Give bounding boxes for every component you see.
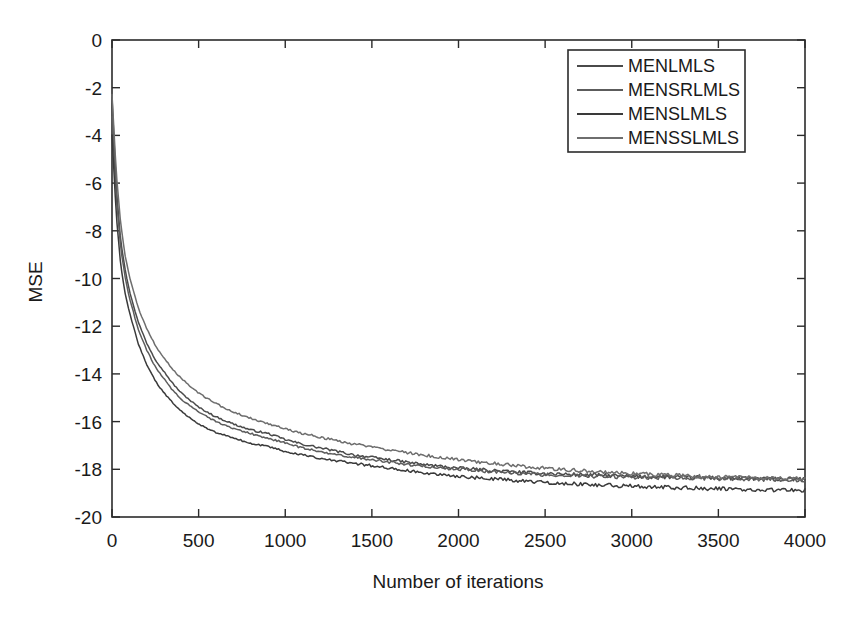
chart-legend: MENLMLSMENSRLMLSMENSLMLSMENSSLMLS (568, 50, 745, 152)
y-tick-label: -18 (75, 459, 102, 480)
x-tick-label: 1500 (351, 530, 393, 551)
y-tick-label: -10 (75, 269, 102, 290)
series-line-mensrlmls (112, 117, 805, 482)
series-lines (112, 95, 805, 492)
y-tick-label: -14 (75, 364, 103, 385)
y-tick-label: 0 (91, 30, 102, 51)
x-tick-label: 2500 (524, 530, 566, 551)
legend-label-mensrlmls: MENSRLMLS (628, 80, 740, 100)
x-tick-label: 3000 (611, 530, 653, 551)
legend-label-menslmls: MENSLMLS (628, 104, 727, 124)
x-axis-title: Number of iterations (372, 571, 543, 592)
x-tick-label: 500 (183, 530, 215, 551)
x-tick-label: 4000 (784, 530, 826, 551)
series-line-menlmls (112, 97, 805, 481)
y-tick-label: -12 (75, 316, 102, 337)
legend-label-mensslmls: MENSSLMLS (628, 128, 739, 148)
y-tick-label: -6 (85, 173, 102, 194)
x-tick-label: 1000 (264, 530, 306, 551)
y-axis-title: MSE (25, 261, 46, 302)
y-tick-label: -2 (85, 78, 102, 99)
y-tick-label: -8 (85, 221, 102, 242)
series-line-menslmls (112, 135, 805, 492)
y-tick-label: -4 (85, 125, 102, 146)
x-tick-label: 3500 (697, 530, 739, 551)
figure-canvas: 0-2-4-6-8-10-12-14-16-18-20 050010001500… (0, 0, 841, 632)
x-tick-label: 2000 (437, 530, 479, 551)
x-tick-label: 0 (107, 530, 118, 551)
mse-convergence-chart: 0-2-4-6-8-10-12-14-16-18-20 050010001500… (0, 0, 841, 632)
legend-label-menlmls: MENLMLS (628, 56, 715, 76)
y-tick-label: -20 (75, 507, 102, 528)
y-tick-label: -16 (75, 412, 102, 433)
